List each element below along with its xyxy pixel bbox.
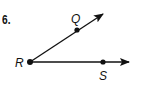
angle-diagram: R Q S xyxy=(0,0,142,85)
label-q: Q xyxy=(71,12,80,26)
point-q xyxy=(74,27,79,32)
label-r: R xyxy=(15,56,24,70)
point-s xyxy=(100,59,105,64)
ray-rq xyxy=(30,14,103,62)
label-s: S xyxy=(99,69,107,83)
point-r xyxy=(27,59,33,65)
